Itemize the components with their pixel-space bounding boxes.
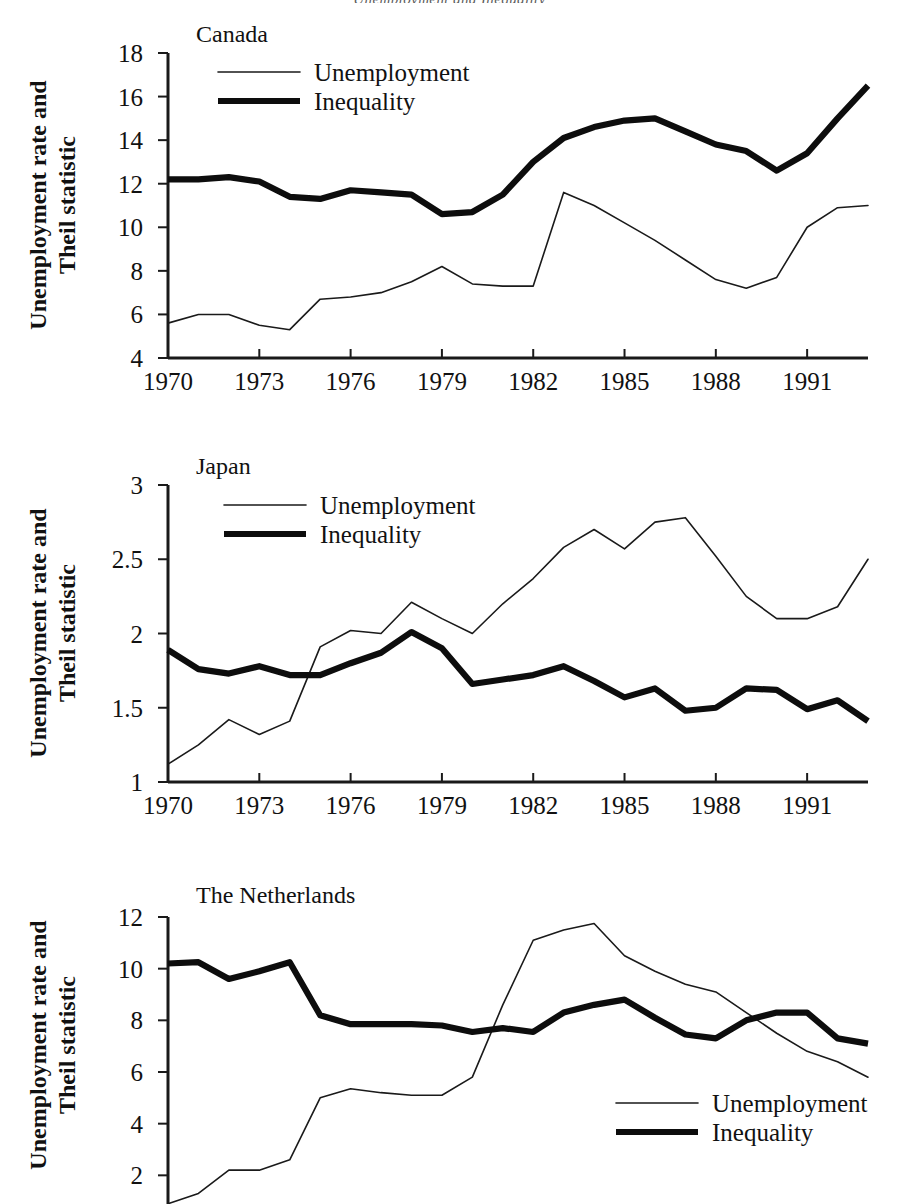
series-line-unemployment [168, 518, 868, 765]
y-axis-title-line-2: Theil statistic [54, 564, 80, 702]
figure-page: Unemployment and Inequality 468101214161… [0, 0, 899, 1204]
panel-title: The Netherlands [196, 882, 355, 908]
chart-panel-canada: 4681012141618197019731976197919821985198… [0, 0, 899, 420]
y-axis-title: Unemployment rate andTheil statistic [25, 508, 80, 758]
series-line-inequality [168, 86, 868, 215]
legend-label-inequality: Inequality [320, 521, 422, 548]
y-axis-title-line-1: Unemployment rate and [25, 508, 51, 758]
x-tick-label: 1988 [691, 368, 741, 395]
y-tick-label: 8 [131, 1007, 144, 1034]
x-tick-label: 1970 [143, 792, 193, 819]
y-tick-label: 14 [118, 127, 144, 154]
y-tick-label: 18 [118, 40, 143, 67]
x-tick-label: 1985 [600, 792, 650, 819]
x-tick-label: 1970 [143, 368, 193, 395]
y-tick-label: 4 [131, 1111, 144, 1138]
y-tick-label: 2 [131, 1162, 144, 1189]
chart-panel-netherlands: 24681012The NetherlandsUnemploymentInequ… [0, 855, 899, 1204]
x-tick-label: 1991 [782, 792, 832, 819]
y-tick-label: 1 [131, 769, 144, 796]
legend-label-unemployment: Unemployment [314, 59, 470, 86]
y-axis-title-line-1: Unemployment rate and [25, 920, 51, 1170]
x-tick-label: 1991 [782, 368, 832, 395]
x-tick-label: 1985 [600, 368, 650, 395]
legend-label-unemployment: Unemployment [320, 492, 476, 519]
x-tick-label: 1988 [691, 792, 741, 819]
series-line-unemployment [168, 192, 868, 329]
y-axis-title: Unemployment rate andTheil statistic [25, 920, 80, 1170]
y-tick-label: 1.5 [112, 695, 143, 722]
netherlands-plot: 24681012The NetherlandsUnemploymentInequ… [0, 855, 899, 1204]
y-tick-label: 10 [118, 956, 143, 983]
y-tick-label: 6 [131, 1059, 144, 1086]
x-tick-label: 1979 [417, 368, 467, 395]
y-axis-title-line-2: Theil statistic [54, 136, 80, 274]
y-tick-label: 4 [131, 345, 144, 372]
y-tick-label: 12 [118, 171, 143, 198]
x-tick-label: 1976 [326, 792, 376, 819]
panel-title: Japan [196, 453, 251, 479]
y-tick-label: 12 [118, 904, 143, 931]
y-tick-label: 10 [118, 214, 143, 241]
legend-label-unemployment: Unemployment [712, 1090, 868, 1117]
y-tick-label: 2.5 [112, 546, 143, 573]
japan-plot: 11.522.531970197319761979198219851988199… [0, 430, 899, 850]
x-tick-label: 1982 [508, 368, 558, 395]
x-tick-label: 1973 [234, 368, 284, 395]
y-tick-label: 6 [131, 301, 144, 328]
y-axis-title: Unemployment rate andTheil statistic [25, 80, 80, 330]
y-axis-title-line-2: Theil statistic [54, 976, 80, 1114]
chart-panel-japan: 11.522.531970197319761979198219851988199… [0, 430, 899, 850]
legend-label-inequality: Inequality [314, 88, 416, 115]
x-tick-label: 1976 [326, 368, 376, 395]
series-line-inequality [168, 632, 868, 721]
y-tick-label: 16 [118, 84, 143, 111]
y-tick-label: 2 [131, 621, 144, 648]
x-tick-label: 1973 [234, 792, 284, 819]
y-tick-label: 8 [131, 258, 144, 285]
x-tick-label: 1979 [417, 792, 467, 819]
x-tick-label: 1982 [508, 792, 558, 819]
y-axis-title-line-1: Unemployment rate and [25, 80, 51, 330]
canada-plot: 4681012141618197019731976197919821985198… [0, 0, 899, 420]
panel-title: Canada [196, 21, 268, 47]
y-tick-label: 3 [131, 472, 144, 499]
legend-label-inequality: Inequality [712, 1119, 814, 1146]
